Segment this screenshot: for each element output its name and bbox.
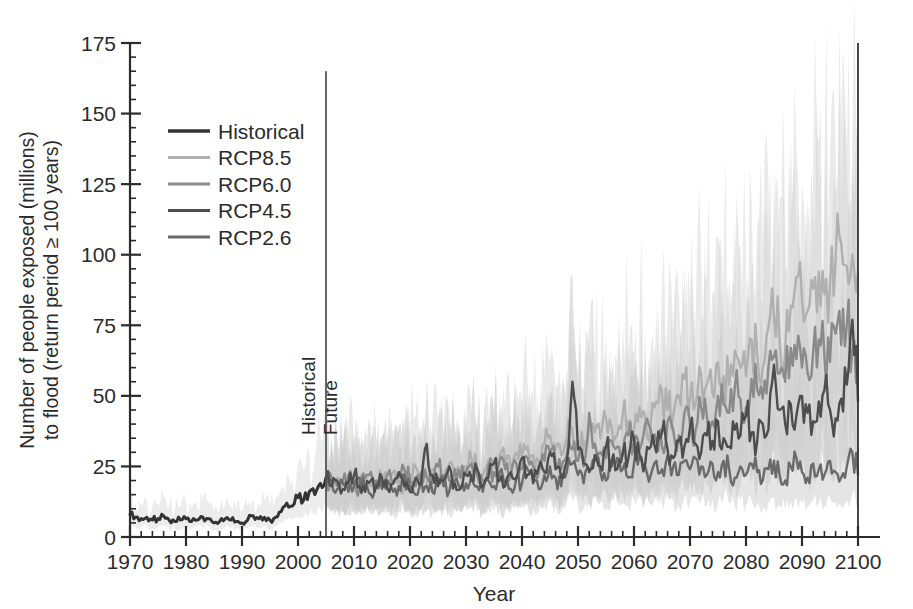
legend-label-rcp85: RCP8.5 <box>218 146 292 169</box>
x-tick-label: 1990 <box>219 550 266 573</box>
y-tick-label: 125 <box>81 173 116 196</box>
x-tick-label: 2020 <box>387 550 434 573</box>
figure-container: 0255075100125150175197019801990200020102… <box>0 0 913 609</box>
legend-label-rcp26: RCP2.6 <box>218 226 292 249</box>
x-tick-label: 1980 <box>163 550 210 573</box>
x-tick-label: 2060 <box>611 550 658 573</box>
legend-label-historical: Historical <box>218 120 304 143</box>
y-tick-label: 50 <box>93 384 116 407</box>
y-tick-label: 150 <box>81 102 116 125</box>
x-axis-title: Year <box>473 582 515 605</box>
y-tick-label: 100 <box>81 243 116 266</box>
x-tick-label: 2000 <box>275 550 322 573</box>
x-tick-label: 2070 <box>667 550 714 573</box>
y-tick-label: 175 <box>81 32 116 55</box>
x-tick-label: 2030 <box>443 550 490 573</box>
y-tick-label: 25 <box>93 455 116 478</box>
y-axis-title-line1: Number of people exposed (millions) <box>16 131 38 449</box>
legend-label-rcp45: RCP4.5 <box>218 199 292 222</box>
y-tick-label: 75 <box>93 314 116 337</box>
historical-era-label: Historical <box>298 357 319 435</box>
y-axis-title-line2: to flood (return period ≥ 100 years) <box>40 140 62 440</box>
x-tick-label: 2100 <box>835 550 882 573</box>
x-tick-label: 2010 <box>331 550 378 573</box>
x-tick-label: 2080 <box>723 550 770 573</box>
x-tick-label: 2090 <box>779 550 826 573</box>
y-tick-label: 0 <box>104 526 116 549</box>
flood-exposure-line-chart: 0255075100125150175197019801990200020102… <box>0 0 913 609</box>
x-tick-label: 2050 <box>555 550 602 573</box>
legend-label-rcp60: RCP6.0 <box>218 173 292 196</box>
future-era-label: Future <box>320 380 341 435</box>
x-tick-label: 2040 <box>499 550 546 573</box>
x-tick-label: 1970 <box>107 550 154 573</box>
